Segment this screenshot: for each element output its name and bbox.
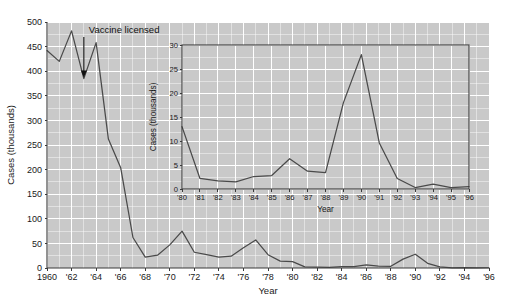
x-tick-label: '70 [164, 272, 176, 282]
inset-chart: '80'81'82'83'84'85'86'87'88'89'90'91'92'… [149, 41, 474, 214]
x-tick-label: '92 [434, 272, 446, 282]
y-tick-label: 30 [170, 41, 178, 50]
y-tick-label: 25 [170, 65, 178, 74]
main-x-axis-title: Year [258, 285, 277, 296]
x-tick-label: '90 [356, 193, 366, 202]
measles-cases-figure: 1960'62'64'66'68'70'72'74'76'78'80'82'84… [0, 0, 506, 307]
x-tick-label: '81 [195, 193, 205, 202]
x-tick-label: '96 [464, 193, 474, 202]
y-tick-label: 10 [170, 137, 178, 146]
y-tick-label: 300 [27, 116, 42, 126]
x-tick-label: '90 [409, 272, 421, 282]
x-tick-label: '86 [285, 193, 295, 202]
x-tick-label: '95 [446, 193, 456, 202]
x-tick-label: '92 [392, 193, 402, 202]
x-tick-label: '94 [459, 272, 471, 282]
y-tick-label: 150 [27, 189, 42, 199]
y-tick-label: 350 [27, 91, 42, 101]
x-tick-label: '83 [231, 193, 241, 202]
y-tick-label: 5 [174, 161, 178, 170]
x-tick-label: '76 [238, 272, 250, 282]
x-tick-label: '86 [360, 272, 372, 282]
chart-canvas: 1960'62'64'66'68'70'72'74'76'78'80'82'84… [0, 0, 506, 307]
x-tick-label: '78 [262, 272, 274, 282]
x-tick-label: '93 [410, 193, 420, 202]
x-tick-label: '64 [90, 272, 102, 282]
inset-x-axis-title: Year [317, 205, 334, 214]
x-tick-label: '82 [213, 193, 223, 202]
x-tick-label: '89 [338, 193, 348, 202]
x-tick-label: 1960 [37, 272, 57, 282]
y-tick-label: 0 [174, 185, 178, 194]
x-tick-label: '88 [385, 272, 397, 282]
y-tick-label: 500 [27, 17, 42, 27]
x-tick-label: '82 [311, 272, 323, 282]
y-tick-label: 200 [27, 165, 42, 175]
y-tick-label: 50 [32, 239, 42, 249]
x-tick-label: '72 [188, 272, 200, 282]
x-tick-label: '68 [139, 272, 151, 282]
x-tick-label: '85 [267, 193, 277, 202]
main-y-axis-title: Cases (thousands) [5, 105, 16, 185]
inset-y-axis-title: Cases (thousands) [149, 82, 158, 151]
y-tick-label: 15 [170, 113, 178, 122]
y-tick-label: 20 [170, 89, 178, 98]
x-tick-label: '80 [177, 193, 187, 202]
y-tick-label: 450 [27, 42, 42, 52]
x-tick-label: '91 [374, 193, 384, 202]
y-tick-label: 250 [27, 140, 42, 150]
y-tick-label: 100 [27, 214, 42, 224]
x-tick-label: '62 [66, 272, 78, 282]
x-tick-label: '88 [321, 193, 331, 202]
annotation-label: Vaccine licensed [89, 24, 160, 35]
x-tick-label: '87 [303, 193, 313, 202]
y-tick-label: 0 [37, 263, 42, 273]
x-tick-label: '80 [287, 272, 299, 282]
x-tick-label: '66 [115, 272, 127, 282]
x-tick-label: '84 [336, 272, 348, 282]
x-tick-label: '94 [428, 193, 438, 202]
x-tick-label: '84 [249, 193, 259, 202]
x-tick-label: '74 [213, 272, 225, 282]
y-tick-label: 400 [27, 66, 42, 76]
x-tick-label: '96 [483, 272, 495, 282]
